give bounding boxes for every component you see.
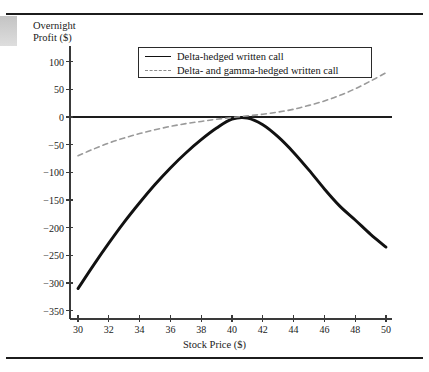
chart-legend: Delta-hedged written call Delta- and gam… [138,47,372,78]
legend-label: Delta-hedged written call [177,51,284,62]
y-axis-title: OvernightProfit ($) [33,20,76,43]
legend-line-swatch-solid-icon [145,51,171,61]
x-axis-tick-label: 48 [350,324,360,335]
series-line-delta-and-gamma-hedged [78,73,386,156]
y-axis-tick-label: −50 [18,139,64,150]
x-axis-tick-label: 38 [196,324,206,335]
legend-label: Delta- and gamma-hedged written call [177,65,339,76]
x-axis-tick-label: 44 [289,324,299,335]
y-axis-tick-label: −150 [18,195,64,206]
y-axis-title-line2: Profit ($) [33,32,72,43]
series-line-delta-hedged [78,118,386,289]
axes-group [66,46,392,322]
x-axis-tick-label: 30 [73,324,83,335]
legend-entry-delta-hedged: Delta-hedged written call [145,49,284,63]
x-axis-tick-label: 46 [319,324,329,335]
y-axis-tick-label: −250 [18,250,64,261]
y-axis-tick-label: −350 [18,305,64,316]
legend-line-swatch-dashed-icon [145,65,171,75]
x-axis-tick-label: 32 [104,324,114,335]
y-axis-title-line1: Overnight [33,20,76,31]
y-axis-tick-label: −100 [18,167,64,178]
x-axis-tick-label: 50 [381,324,391,335]
x-axis-tick-label: 34 [135,324,145,335]
figure-container: OvernightProfit ($) Stock Price ($) 1005… [0,0,429,372]
y-axis-tick-label: −200 [18,222,64,233]
x-axis-tick-label: 42 [258,324,268,335]
y-axis-tick-label: 0 [18,112,64,123]
legend-entry-delta-and-gamma-hedged: Delta- and gamma-hedged written call [145,63,339,77]
y-axis-tick-label: −300 [18,278,64,289]
series-group [78,73,386,289]
y-axis-tick-label: 50 [18,84,64,95]
x-axis-tick-label: 36 [165,324,175,335]
x-axis-title: Stock Price ($) [0,339,429,351]
y-axis-tick-label: 100 [18,56,64,67]
x-axis-tick-label: 40 [227,324,237,335]
